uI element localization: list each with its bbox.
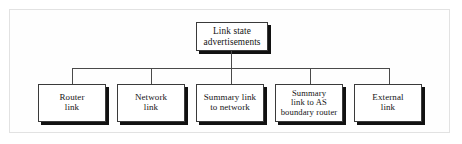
- node-label: Summary link to network: [197, 93, 263, 112]
- node-label: Link state advertisements: [197, 26, 267, 46]
- node-summary-link-to-network[interactable]: Summary link to network: [196, 84, 264, 122]
- diagram-canvas: Link state advertisements Router link Ne…: [0, 0, 462, 144]
- connector-drop-2: [151, 68, 152, 84]
- connector-drop-5: [389, 68, 390, 84]
- connector-root-stem: [231, 51, 232, 69]
- node-external-link[interactable]: External link: [354, 84, 422, 122]
- node-network-link[interactable]: Network link: [117, 84, 185, 122]
- connector-drop-3: [231, 68, 232, 84]
- node-label: Summary link to AS boundary router: [276, 89, 342, 117]
- node-link-state-advertisements[interactable]: Link state advertisements: [196, 22, 268, 51]
- connector-drop-1: [72, 68, 73, 84]
- node-router-link[interactable]: Router link: [38, 84, 106, 122]
- node-label: Network link: [118, 93, 184, 112]
- node-summary-link-to-as-boundary-router[interactable]: Summary link to AS boundary router: [275, 84, 343, 122]
- node-label: External link: [355, 93, 421, 112]
- connector-drop-4: [310, 68, 311, 84]
- node-label: Router link: [39, 93, 105, 112]
